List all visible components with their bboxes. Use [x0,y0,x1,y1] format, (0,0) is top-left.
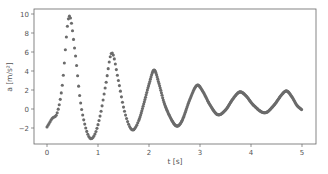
data-point [57,108,60,111]
y-tick-label: 10 [20,11,29,19]
data-point [97,119,100,122]
y-tick-label: −2 [19,125,29,133]
data-point [118,84,121,87]
x-axis-label: t [s] [167,157,182,166]
data-point [95,127,98,130]
x-tick-label: 2 [147,149,151,157]
data-point [64,48,67,51]
data-point [63,61,66,64]
data-point [66,25,69,28]
data-point [108,61,111,64]
data-point [124,114,127,117]
y-tick-label: 4 [25,68,30,76]
data-point [85,130,88,133]
data-point [105,81,108,84]
y-tick-label: 8 [25,30,29,38]
x-tick-label: 4 [249,149,254,157]
x-axis: 012345 [45,144,304,157]
data-point [121,101,124,104]
data-point [113,57,116,60]
data-point [117,79,120,82]
data-point [79,102,82,105]
data-point [101,104,104,107]
data-point [62,74,65,77]
data-point [65,35,68,38]
data-point [60,91,63,94]
data-point [120,95,123,98]
data-point [82,118,85,121]
data-point [73,47,76,50]
data-point [83,123,86,126]
data-point [61,84,64,87]
data-point [107,67,110,70]
data-point [72,38,75,41]
data-point [71,29,74,32]
y-tick-label: 6 [25,49,30,57]
x-tick-label: 5 [300,149,304,157]
data-point [103,92,106,95]
chart: −20246810 012345 t [s] a [m/s²] [0,0,328,174]
y-tick-label: 2 [25,87,29,95]
data-point [94,130,97,133]
data-point [77,85,80,88]
data-point [125,117,128,120]
data-point [96,123,99,126]
data-point [80,108,83,111]
y-axis-label: a [m/s²] [5,62,14,92]
data-point [109,55,112,58]
data-point [106,74,109,77]
data-point [123,110,126,113]
data-point [112,54,115,57]
data-point [78,94,81,97]
data-point [84,126,87,129]
data-point [119,90,122,93]
data-point [58,103,61,106]
data-point [75,64,78,67]
data-point [98,115,101,118]
data-point [74,54,77,57]
data-point [116,74,119,77]
y-axis: −20246810 [19,11,34,133]
data-point [104,87,107,90]
x-tick-label: 0 [45,149,49,157]
data-point [69,16,72,19]
data-point [56,111,59,114]
x-tick-label: 3 [198,149,202,157]
data-point [114,62,117,65]
data-point [300,108,303,111]
data-point [100,110,103,113]
data-point [122,106,125,109]
data-point [76,74,79,77]
data-point [115,68,118,71]
y-tick-label: 0 [25,106,29,114]
data-point [102,98,105,101]
data-point [81,113,84,116]
x-tick-label: 1 [96,149,100,157]
data-point [59,98,62,101]
data-point [70,22,73,25]
